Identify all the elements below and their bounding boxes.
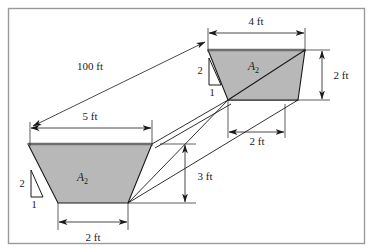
- reach-length-dimension-line: [33, 42, 205, 126]
- lower-slope-triangle: [31, 170, 43, 197]
- drop-height-label: 3 ft: [198, 170, 213, 182]
- dimension-offset-width: 2 ft: [228, 100, 285, 147]
- offset-width-label: 2 ft: [250, 135, 265, 147]
- lower-cross-section: A2: [28, 144, 152, 203]
- lower-slope-rise-label: 2: [19, 178, 24, 189]
- upper-slope-rise-label: 2: [197, 65, 202, 76]
- lower-top-width-label: 5 ft: [83, 110, 98, 122]
- figure-frame: [9, 9, 365, 244]
- dimension-reach-length: 100 ft: [33, 42, 205, 126]
- reach-edges: [128, 100, 298, 203]
- upper-cross-section: A2: [208, 50, 305, 100]
- reach-length-label: 100 ft: [77, 60, 103, 72]
- lower-bottom-width-label: 2 ft: [86, 231, 101, 243]
- upper-trapezoid-fill: [208, 50, 305, 100]
- lower-trapezoid-fill: [28, 144, 152, 203]
- dimension-lower-bottom-width: 2 ft: [58, 203, 128, 243]
- lower-slope-run-label: 1: [31, 199, 36, 210]
- upper-depth-label: 2 ft: [334, 69, 349, 81]
- dimension-upper-top-width: 4 ft: [208, 15, 305, 52]
- engineering-diagram: A2 A2 100 ft 4 ft: [0, 0, 373, 252]
- upper-top-width-label: 4 ft: [249, 15, 264, 27]
- lower-slope-indicator: 2 1: [19, 170, 43, 210]
- dimension-lower-top-width: 5 ft: [30, 110, 152, 146]
- upper-slope-run-label: 1: [209, 87, 214, 98]
